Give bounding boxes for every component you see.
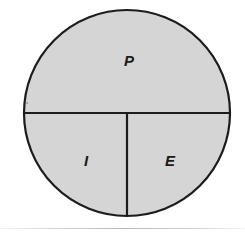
stray-speck [26, 102, 28, 104]
region-label-p: P [124, 52, 135, 69]
partitioned-circle-diagram: P I E [0, 0, 245, 233]
region-label-e: E [165, 152, 176, 169]
bottom-rule [0, 228, 245, 229]
figure-root: P I E [0, 0, 245, 233]
